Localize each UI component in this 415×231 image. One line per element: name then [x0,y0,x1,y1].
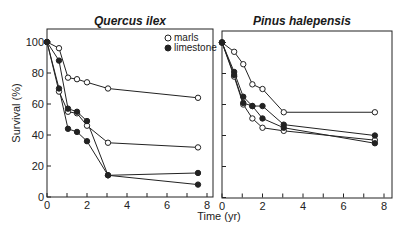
survival-figure: Quercus ilex 02468020406080100 Survival … [0,0,415,231]
open-circle-marker [56,46,61,51]
open-circle-marker [260,86,265,91]
plot-frame [47,29,213,197]
filled-circle-marker [84,139,89,144]
x-tick-label: 4 [124,199,130,211]
filled-circle-icon [165,45,171,51]
open-circle-marker [260,125,265,130]
y-tick-label: 40 [32,129,44,141]
data-series [44,39,200,187]
filled-circle-marker [65,106,70,111]
x-tick-label: 6 [164,199,170,211]
open-circle-marker [241,61,246,66]
open-circle-marker [74,77,79,82]
filled-circle-marker [219,40,224,45]
open-circle-icon [165,35,171,41]
open-circle-marker [281,110,286,115]
filled-circle-marker [231,72,236,77]
open-circle-marker [84,80,89,85]
filled-circle-marker [84,118,89,123]
x-tick-label: 0 [44,199,50,211]
series-line [222,43,375,136]
filled-circle-marker [241,100,246,105]
filled-circle-marker [372,141,377,146]
series-line [222,43,375,144]
panel-pinus-halepensis: Pinus halepensis 02468 [219,14,392,212]
filled-circle-marker [74,109,79,114]
filled-circle-marker [372,133,377,138]
open-circle-marker [372,110,377,115]
series-line [47,42,198,147]
filled-circle-marker [74,129,79,134]
legend: marls limestone [165,32,217,53]
filled-circle-marker [281,125,286,130]
y-tick-label: 20 [32,160,44,172]
y-tick-label: 0 [38,191,44,203]
x-tick-label: 2 [259,200,265,212]
filled-circle-marker [56,58,61,63]
filled-circle-marker [65,126,70,131]
open-circle-marker [105,140,110,145]
panel-quercus-ilex: Quercus ilex 02468020406080100 Survival … [10,14,217,211]
filled-circle-marker [105,173,110,178]
filled-circle-marker [44,39,49,44]
open-circle-marker [65,75,70,80]
open-circle-marker [105,86,110,91]
panel-title: Pinus halepensis [253,14,351,28]
x-tick-label: 4 [300,200,306,212]
x-tick-label: 8 [381,200,387,212]
axis-ticks: 02468020406080100 [26,36,210,211]
data-series [219,40,377,146]
filled-circle-marker [250,103,255,108]
filled-circle-marker [195,182,200,187]
open-circle-marker [250,116,255,121]
x-tick-label: 2 [84,199,90,211]
x-axis-label: Time (yr) [197,210,241,222]
filled-circle-marker [56,86,61,91]
open-circle-marker [250,82,255,87]
filled-circle-marker [260,103,265,108]
open-circle-marker [231,49,236,54]
plot-frame [222,31,392,198]
y-axis-label: Survival (%) [10,83,22,142]
y-tick-label: 80 [32,67,44,79]
y-tick-label: 100 [26,36,44,48]
open-circle-marker [195,95,200,100]
y-tick-label: 60 [32,98,44,110]
filled-circle-marker [241,94,246,99]
x-tick-label: 6 [340,200,346,212]
series-line [222,43,375,141]
filled-circle-marker [260,116,265,121]
panel-title: Quercus ilex [94,14,167,28]
filled-circle-marker [195,170,200,175]
legend-limestone: limestone [174,42,217,53]
open-circle-marker [195,145,200,150]
